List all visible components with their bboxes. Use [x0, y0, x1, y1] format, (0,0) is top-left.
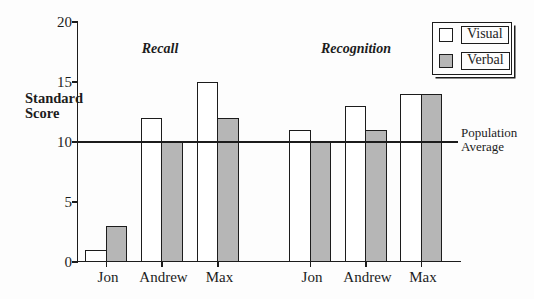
bar-recognition-jon-verbal	[310, 142, 332, 262]
y-tick-label-20: 20	[57, 14, 72, 31]
x-label-recall-max: Max	[206, 269, 234, 285]
x-tick-recognition-jon	[310, 262, 311, 267]
bar-recall-andrew-visual	[141, 118, 163, 262]
verbal-swatch	[439, 54, 453, 68]
x-label-recognition-max: Max	[409, 269, 437, 285]
x-tick-recognition-max	[421, 262, 422, 267]
legend-label-visual: Visual	[461, 26, 509, 44]
visual-swatch	[439, 28, 453, 42]
bar-recall-max-verbal	[217, 118, 239, 262]
x-label-recall-jon: Jon	[98, 269, 119, 285]
x-tick-recognition-andrew	[365, 262, 366, 267]
legend-item-visual: Visual	[439, 26, 509, 43]
x-tick-recall-max	[217, 262, 218, 267]
x-tick-recall-andrew	[161, 262, 162, 267]
bar-recognition-andrew-verbal	[365, 130, 387, 262]
bar-recognition-max-visual	[400, 94, 422, 262]
x-axis-line	[77, 261, 461, 263]
legend: Visual Verbal	[432, 22, 512, 75]
y-tick-label-10: 10	[57, 134, 72, 151]
bar-recognition-jon-visual	[289, 130, 311, 262]
bar-recall-max-visual	[197, 82, 219, 262]
bar-chart-figure: Standard Score Recall Recognition 201510…	[0, 0, 534, 299]
bar-recognition-andrew-visual	[345, 106, 367, 262]
legend-label-verbal: Verbal	[461, 52, 510, 70]
y-tick-label-0: 0	[65, 254, 73, 271]
legend-item-verbal: Verbal	[439, 52, 510, 69]
y-tick-label-15: 15	[57, 74, 72, 91]
group-label-recognition: Recognition	[321, 41, 391, 57]
group-label-recall: Recall	[142, 41, 179, 57]
x-label-recall-andrew: Andrew	[139, 269, 187, 285]
bar-recognition-max-verbal	[421, 94, 443, 262]
x-label-recognition-jon: Jon	[302, 269, 323, 285]
bar-recall-andrew-verbal	[161, 142, 183, 262]
x-label-recognition-andrew: Andrew	[343, 269, 391, 285]
population-average-label: Population Average	[461, 126, 527, 153]
bar-recall-jon-verbal	[106, 226, 128, 262]
population-average-line	[78, 141, 458, 143]
x-tick-recall-jon	[106, 262, 107, 267]
y-tick-label-5: 5	[65, 194, 73, 211]
